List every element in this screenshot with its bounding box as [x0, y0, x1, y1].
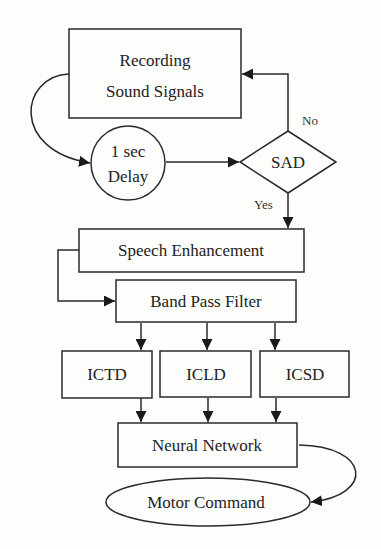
edge-neural-network-to-motor-command	[299, 445, 356, 502]
node-recording-sound-signals: Recording Sound Signals	[69, 29, 241, 118]
node-recording-label-line1: Recording	[120, 51, 191, 70]
node-band-pass-filter-label: Band Pass Filter	[150, 292, 262, 311]
node-speech-enhancement: Speech Enhancement	[79, 229, 304, 272]
node-neural-network-label: Neural Network	[152, 436, 262, 455]
node-band-pass-filter: Band Pass Filter	[116, 280, 296, 322]
edge-label-yes: Yes	[254, 197, 273, 212]
node-motor-command: Motor Command	[106, 478, 310, 526]
node-delay-label-line2: Delay	[108, 167, 149, 186]
node-icsd-label: ICSD	[286, 365, 325, 384]
node-delay-label-line1: 1 sec	[111, 142, 146, 161]
node-speech-enhancement-label: Speech Enhancement	[118, 241, 264, 260]
node-sad: SAD	[240, 131, 336, 193]
node-recording-label-line2: Sound Signals	[106, 82, 204, 101]
node-ictd: ICTD	[62, 351, 152, 398]
node-sad-label: SAD	[271, 153, 305, 172]
node-icsd: ICSD	[260, 351, 349, 397]
node-neural-network: Neural Network	[118, 423, 297, 467]
node-icld: ICLD	[160, 351, 251, 397]
node-delay-shape	[91, 126, 165, 200]
edge-label-no: No	[302, 113, 318, 128]
node-icld-label: ICLD	[186, 365, 226, 384]
node-delay: 1 sec Delay	[91, 126, 165, 200]
node-motor-command-label: Motor Command	[147, 493, 265, 512]
flowchart-canvas: Recording Sound Signals 1 sec Delay SAD …	[0, 0, 381, 549]
node-ictd-label: ICTD	[87, 365, 127, 384]
edge-sad-to-recording-no	[242, 74, 288, 131]
node-recording-shape	[69, 29, 241, 118]
